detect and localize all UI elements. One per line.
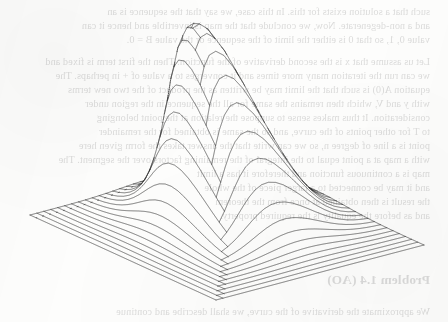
mesh-line-row [30, 215, 216, 300]
mesh-line-row [113, 139, 225, 212]
scanned-page: such that a solution exists for this. In… [0, 0, 448, 322]
mesh-line-col [220, 228, 387, 272]
mesh-line-row [51, 209, 225, 289]
mesh-line-col [217, 239, 412, 291]
mesh-line-row [293, 169, 298, 175]
mesh-line-col [221, 202, 368, 252]
surface-plot-canvas [0, 0, 448, 322]
mesh-line-row [182, 27, 201, 40]
mesh-line-row [174, 40, 204, 67]
mesh-line-col [30, 181, 144, 215]
mesh-line-row [92, 198, 228, 257]
mesh-line-col [195, 33, 238, 75]
mesh-line-col [216, 245, 424, 300]
mesh-line-col [218, 236, 406, 286]
mesh-line-row [37, 213, 223, 298]
mesh-line-row [106, 163, 227, 232]
mesh-line-row [235, 69, 245, 86]
mesh-line-row [302, 180, 307, 186]
mesh-line-col [218, 234, 399, 282]
mesh-line-col [200, 51, 264, 123]
mesh-line-col [216, 131, 349, 208]
mesh-line-row [65, 206, 227, 280]
mesh-line-col [221, 218, 374, 261]
mesh-line-row [78, 202, 227, 270]
mesh-line-row [222, 48, 227, 55]
mesh-line-row [44, 211, 224, 293]
mesh-line-row [85, 200, 228, 264]
mesh-lines-u [30, 23, 424, 300]
mesh-line-row [168, 60, 210, 105]
surface-plot-figure [0, 0, 448, 322]
mesh-line-row [99, 184, 228, 247]
mesh-line-row [58, 208, 226, 285]
mesh-line-col [219, 231, 393, 277]
